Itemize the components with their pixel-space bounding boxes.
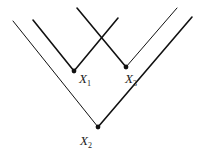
cone-x1-right-arm <box>74 18 118 71</box>
node-x2-point <box>96 125 101 130</box>
cone-x3-right-arm <box>126 8 177 67</box>
cone-x3: X3 <box>77 8 177 88</box>
node-x3-label: X3 <box>124 71 137 88</box>
cone-x1-left-arm <box>33 20 74 71</box>
node-x3-point <box>124 65 129 70</box>
node-x1-label: X1 <box>78 71 91 88</box>
cone-diagram: X2 X1 X3 <box>0 0 201 154</box>
node-x2-label: X2 <box>79 133 92 150</box>
node-x1-point <box>72 69 77 74</box>
cone-x1: X1 <box>33 18 118 88</box>
cone-x2-right-arm <box>98 17 192 127</box>
